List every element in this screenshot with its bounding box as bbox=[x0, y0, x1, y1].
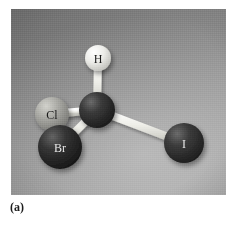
figure-panel-a: Cl H I Br (a bbox=[0, 0, 237, 225]
figure-caption: (a) bbox=[10, 200, 24, 214]
molecular-model-photograph: Cl H I Br bbox=[11, 9, 226, 195]
vignette-overlay bbox=[11, 9, 226, 195]
